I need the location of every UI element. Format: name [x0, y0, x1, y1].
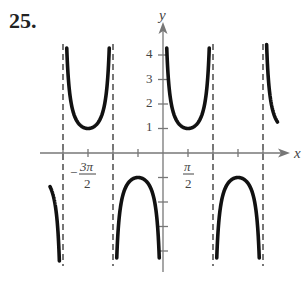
csc-branch	[217, 178, 260, 258]
y-tick-label-3: 3	[146, 71, 153, 86]
y-tick-label-2: 2	[146, 95, 153, 110]
y-tick-label-1: 1	[146, 119, 153, 134]
x-tick-label-numerator: π	[184, 159, 191, 174]
axes	[40, 28, 284, 272]
x-tick-label-pi-over-2: π 2	[183, 159, 194, 191]
x-tick-label-neg-3pi-over-2: − 3π 2	[70, 159, 96, 191]
csc-branch	[167, 48, 210, 128]
x-tick-label-numerator: 3π	[79, 159, 94, 174]
x-tick-label-sign: −	[70, 165, 77, 180]
csc-branch	[50, 187, 59, 261]
csc-branch	[117, 178, 160, 258]
y-tick-label-4: 4	[146, 46, 153, 61]
csc-branch	[67, 48, 110, 128]
csc-graph: x y 1 2 3 4 − 3π 2 π 2	[0, 0, 305, 283]
y-axis-label: y	[157, 7, 166, 23]
csc-branch	[267, 45, 278, 122]
y-tick-labels: 1 2 3 4	[146, 46, 153, 134]
x-tick-label-denominator: 2	[84, 176, 91, 191]
x-tick-label-denominator: 2	[185, 176, 192, 191]
x-axis-label: x	[293, 145, 301, 161]
